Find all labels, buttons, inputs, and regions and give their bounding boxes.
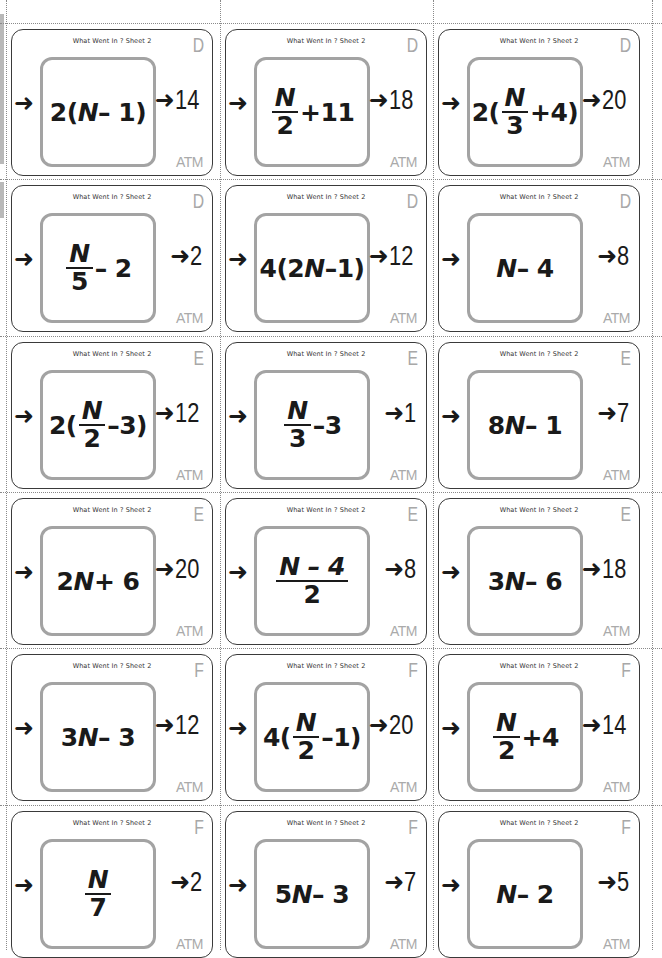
function-expression: N – 4	[496, 254, 554, 283]
expr-variable: N	[292, 880, 312, 909]
function-expression: 2(N3+4)	[472, 85, 579, 140]
fraction: N – 42	[276, 554, 348, 609]
output: ➜ 2	[170, 242, 206, 270]
function-card: What Went In ? Sheet 2 D ➜ N5 – 2 ➜ 2 AT…	[11, 185, 213, 332]
expr-rest: – 3	[312, 880, 349, 909]
expr-rest: – 3	[98, 723, 135, 752]
output-value: 8	[617, 242, 629, 270]
input-arrow-icon: ➜	[228, 716, 248, 740]
sheet-title: What Went In ? Sheet 2	[12, 37, 212, 45]
function-expression: 4(2N–1)	[260, 254, 365, 283]
output-value: 1	[404, 399, 416, 427]
expr-variable: N	[505, 411, 525, 440]
input-arrow-icon: ➜	[228, 873, 248, 897]
fraction: N2	[272, 85, 298, 140]
function-expression: 3N – 6	[488, 567, 562, 596]
function-machine-box: 2(N2–3)	[40, 370, 156, 480]
function-machine-box: N7	[40, 839, 156, 949]
sheet-title: What Went In ? Sheet 2	[439, 662, 639, 670]
level-letter: E	[407, 503, 418, 524]
output: ➜ 7	[597, 399, 633, 427]
input-arrow-icon: ➜	[14, 560, 34, 584]
fraction: N7	[85, 867, 111, 922]
function-card: What Went In ? Sheet 2 F ➜ N7 ➜ 2 ATM	[11, 811, 213, 958]
output-arrow-icon: ➜	[170, 870, 190, 894]
cut-line-vertical	[433, 0, 434, 950]
output-arrow-icon: ➜	[155, 401, 175, 425]
output: ➜ 14	[582, 711, 633, 739]
expr-rest: –1)	[325, 254, 365, 283]
function-machine-box: 8N – 1	[467, 370, 583, 480]
level-letter: E	[193, 347, 204, 368]
cut-line-horizontal	[0, 805, 662, 806]
output-arrow-icon: ➜	[155, 713, 175, 737]
input-arrow-icon: ➜	[14, 873, 34, 897]
fraction-numerator: N	[66, 241, 92, 269]
expr-suffix: +4	[522, 723, 559, 752]
fraction-denominator: 3	[289, 426, 306, 452]
fraction-numerator: N	[293, 710, 319, 738]
sheet-title: What Went In ? Sheet 2	[226, 350, 426, 358]
input-arrow-icon: ➜	[441, 91, 461, 115]
fraction: N3	[502, 85, 528, 140]
function-expression: N – 42	[274, 554, 350, 609]
expr-coefficient: 5	[275, 880, 292, 909]
output-value: 2	[190, 868, 202, 896]
input-arrow-icon: ➜	[228, 91, 248, 115]
function-card: What Went In ? Sheet 2 D ➜ N2+11 ➜ 18 AT…	[225, 29, 427, 176]
level-letter: D	[193, 190, 204, 211]
atm-logo: ATM	[603, 936, 630, 952]
expr-variable: N	[505, 567, 525, 596]
expr-coefficient: 2(	[50, 98, 78, 127]
output: ➜ 2	[170, 868, 206, 896]
function-card: What Went In ? Sheet 2 E ➜ 2(N2–3) ➜ 12 …	[11, 342, 213, 489]
fraction: N2	[493, 710, 519, 765]
function-card: What Went In ? Sheet 2 E ➜ 3N – 6 ➜ 18 A…	[438, 498, 640, 645]
function-expression: N – 2	[496, 880, 554, 909]
level-letter: E	[620, 503, 631, 524]
output-value: 5	[617, 868, 629, 896]
function-card: What Went In ? Sheet 2 D ➜ 2(N – 1) ➜ 14…	[11, 29, 213, 176]
function-machine-box: 4(N2–1)	[254, 682, 370, 792]
fraction-numerator: N	[272, 85, 298, 113]
output-arrow-icon: ➜	[369, 244, 389, 268]
function-machine-box: N3–3	[254, 370, 370, 480]
function-card: What Went In ? Sheet 2 E ➜ N3–3 ➜ 1 ATM	[225, 342, 427, 489]
fraction-denominator: 2	[276, 113, 293, 139]
sheet-title: What Went In ? Sheet 2	[12, 819, 212, 827]
fraction: N5	[66, 241, 92, 296]
level-letter: D	[407, 34, 418, 55]
expr-suffix: +11	[300, 98, 354, 127]
expr-variable: N	[73, 567, 93, 596]
sheet-title: What Went In ? Sheet 2	[12, 506, 212, 514]
function-machine-box: 3N – 6	[467, 526, 583, 636]
level-letter: E	[620, 347, 631, 368]
fraction-denominator: 5	[71, 269, 88, 295]
cut-line-horizontal	[0, 179, 662, 180]
scan-edge-strip	[0, 14, 4, 164]
function-expression: 2N + 6	[57, 567, 140, 596]
level-letter: F	[408, 659, 418, 680]
expr-rest: – 6	[525, 567, 562, 596]
fraction-denominator: 3	[506, 113, 523, 139]
sheet-title: What Went In ? Sheet 2	[439, 193, 639, 201]
expr-rest: – 2	[517, 880, 554, 909]
cut-line-horizontal	[0, 336, 662, 337]
output-arrow-icon: ➜	[384, 870, 404, 894]
function-machine-box: 4(2N–1)	[254, 213, 370, 323]
input-arrow-icon: ➜	[228, 404, 248, 428]
output: ➜ 12	[369, 242, 420, 270]
output-value: 20	[389, 711, 413, 739]
output-arrow-icon: ➜	[582, 713, 602, 737]
expr-rest: – 4	[517, 254, 554, 283]
cut-line-horizontal	[0, 23, 662, 24]
expr-suffix: –3	[313, 411, 342, 440]
output-value: 7	[404, 868, 416, 896]
atm-logo: ATM	[603, 779, 630, 795]
output-arrow-icon: ➜	[155, 88, 175, 112]
level-letter: E	[407, 347, 418, 368]
input-arrow-icon: ➜	[228, 560, 248, 584]
function-card: What Went In ? Sheet 2 D ➜ N – 4 ➜ 8 ATM	[438, 185, 640, 332]
expr-variable: N	[78, 98, 98, 127]
function-card: What Went In ? Sheet 2 D ➜ 4(2N–1) ➜ 12 …	[225, 185, 427, 332]
